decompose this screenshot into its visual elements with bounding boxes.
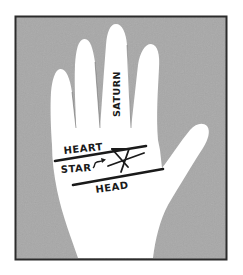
star-label: STAR: [60, 162, 91, 175]
palm-illustration: SATURN HEART HEAD STAR: [0, 0, 243, 275]
saturn-finger-label: SATURN: [111, 71, 122, 117]
